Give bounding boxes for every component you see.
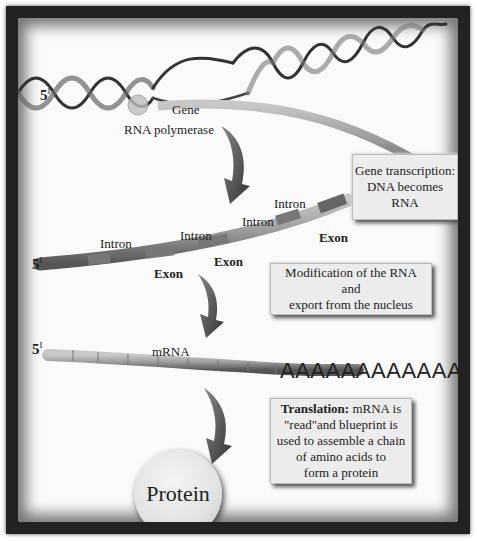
exon-label: Exon [154, 266, 183, 282]
arrow-down-icon [198, 274, 224, 338]
pre-mrna-five-prime-label: 5I [32, 255, 43, 273]
protein-label: Protein [146, 481, 210, 507]
box-line: Translation: mRNA is [271, 401, 411, 417]
mrna-five-prime-label: 5I [32, 340, 43, 358]
dna-helix [18, 24, 446, 108]
modification-box: Modification of the RNA and export from … [270, 263, 432, 315]
intron-label: Intron [242, 214, 274, 230]
box-line: and [271, 281, 431, 297]
box-line: RNA [353, 195, 457, 211]
box-line: Gene transcription: [353, 163, 457, 179]
exon-label: Exon [319, 230, 348, 246]
poly-a-tail: AAAAAAAAAAAA [280, 358, 458, 384]
box-line: Modification of the RNA [271, 265, 431, 281]
exon-label: Exon [214, 254, 243, 270]
intron-label: Intron [274, 196, 306, 212]
mrna-label: mRNA [152, 344, 190, 360]
diagram-canvas: 5I Gene RNA polymerase Gene transcriptio… [18, 18, 458, 522]
box-line: DNA becomes [353, 179, 457, 195]
intron-label: Intron [180, 228, 212, 244]
translation-box: Translation: mRNA is "read"and blueprint… [270, 398, 412, 484]
box-line: of amino acids to [271, 449, 411, 465]
box-line: used to assemble a chain [271, 433, 411, 449]
gene-label: Gene [172, 102, 199, 118]
diagram-frame: 5I Gene RNA polymerase Gene transcriptio… [6, 6, 470, 534]
box-line: export from the nucleus [271, 297, 431, 313]
rna-polymerase-icon [128, 95, 148, 115]
arrow-down-icon [221, 126, 250, 204]
dna-five-prime-label: 5I [40, 86, 51, 104]
box-line: "read"and blueprint is [271, 417, 411, 433]
transcription-box: Gene transcription: DNA becomes RNA [352, 154, 458, 220]
arrow-down-icon [204, 388, 232, 464]
intron-label: Intron [100, 236, 132, 252]
rna-polymerase-label: RNA polymerase [124, 122, 214, 138]
box-line: form a protein [271, 465, 411, 481]
